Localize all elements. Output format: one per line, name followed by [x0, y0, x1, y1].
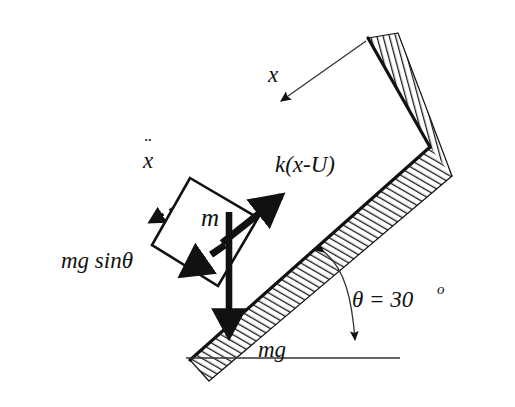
weight-label: mg	[258, 337, 286, 362]
mass-label: m	[201, 204, 219, 231]
spring-force-label: k(x-U)	[275, 152, 335, 177]
diagram-canvas: x x ¨ m k(x-U) mg sinθ mg θ = 30 o	[0, 0, 515, 407]
angle-degree-icon: o	[437, 281, 445, 297]
displacement-x-label: x	[267, 62, 279, 87]
gravity-component-label: mg sinθ	[61, 248, 133, 273]
acceleration-dots-icon: ¨	[145, 133, 152, 157]
inclined-plane-diagram: x x ¨ m k(x-U) mg sinθ mg θ = 30 o	[0, 0, 515, 407]
angle-label: θ = 30	[352, 287, 414, 312]
